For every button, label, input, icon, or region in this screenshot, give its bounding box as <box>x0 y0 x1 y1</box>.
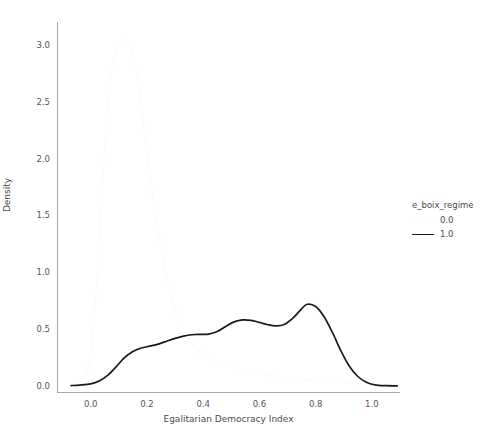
legend-line-swatch <box>412 234 434 235</box>
legend-item-label: 0.0 <box>440 215 454 225</box>
x-axis-spine <box>57 392 400 393</box>
legend-line-swatch <box>412 220 434 221</box>
x-tick-label: 0.2 <box>140 399 154 409</box>
y-tick-label: 2.0 <box>36 154 50 164</box>
legend-title: e_boix_regime <box>412 200 490 210</box>
x-axis-title: Egalitarian Democracy Index <box>0 414 457 424</box>
density-curves <box>57 22 400 393</box>
y-tick-label: 0.0 <box>36 381 50 391</box>
y-tick-label: 3.0 <box>36 40 50 50</box>
x-tick-label: 0.4 <box>196 399 210 409</box>
x-tick-label: 0.0 <box>84 399 98 409</box>
density-curve-1.0 <box>71 304 397 386</box>
y-axis-title: Density <box>2 105 12 285</box>
y-tick-label: 1.5 <box>36 210 50 220</box>
y-tick-label: 0.5 <box>36 324 50 334</box>
x-tick-label: 0.6 <box>253 399 267 409</box>
x-tick-label: 0.8 <box>309 399 323 409</box>
y-tick-label: 1.0 <box>36 267 50 277</box>
legend: e_boix_regime 0.01.0 <box>412 200 490 241</box>
legend-item[interactable]: 1.0 <box>412 227 490 241</box>
y-axis-spine <box>57 22 58 393</box>
legend-item-label: 1.0 <box>440 229 454 239</box>
x-tick-label: 1.0 <box>365 399 379 409</box>
density-plot-figure: 0.00.51.01.52.02.53.0 Density 0.00.20.40… <box>0 0 492 440</box>
legend-entries: 0.01.0 <box>412 213 490 241</box>
legend-item[interactable]: 0.0 <box>412 213 490 227</box>
density-curve-0.0 <box>74 39 372 385</box>
y-tick-label: 2.5 <box>36 97 50 107</box>
plot-area <box>57 22 400 393</box>
